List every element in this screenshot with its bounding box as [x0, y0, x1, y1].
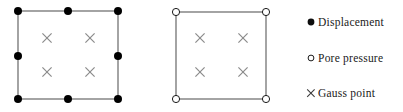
displacement-element	[14, 7, 122, 103]
hollow-circle-icon	[302, 51, 318, 65]
legend-item-pore-pressure: Pore pressure	[302, 51, 383, 65]
legend-label-pore-pressure: Pore pressure	[318, 51, 383, 65]
legend-label-displacement: Displacement	[318, 15, 384, 29]
gauss-point-marker	[238, 33, 247, 42]
gauss-point-marker	[85, 67, 94, 76]
gauss-point-marker	[42, 67, 51, 76]
gauss-point-marker	[195, 33, 204, 42]
displacement-node	[114, 7, 122, 15]
pore-pressure-node	[172, 95, 179, 102]
filled-circle-icon	[302, 15, 318, 29]
displacement-node	[14, 7, 22, 15]
gauss-point-marker	[195, 67, 204, 76]
displacement-node	[64, 95, 72, 103]
legend-item-gauss-point: Gauss point	[302, 86, 375, 100]
element-boundary	[176, 12, 266, 99]
legend: Displacement Pore pressure Gauss point	[302, 0, 403, 112]
gauss-point-marker	[42, 33, 51, 42]
cross-x-icon	[302, 86, 318, 100]
displacement-node	[14, 52, 22, 60]
pore-pressure-node	[172, 8, 179, 15]
pore-pressure-element	[172, 8, 269, 102]
gauss-point-marker	[238, 67, 247, 76]
pore-pressure-node	[262, 8, 269, 15]
pore-pressure-node	[262, 95, 269, 102]
gauss-point-marker	[85, 33, 94, 42]
legend-item-displacement: Displacement	[302, 15, 384, 29]
element-node-figure: Displacement Pore pressure Gauss point	[0, 0, 403, 112]
displacement-node	[114, 95, 122, 103]
displacement-node	[64, 7, 72, 15]
displacement-node	[14, 95, 22, 103]
element-boundary	[18, 11, 118, 99]
legend-label-gauss-point: Gauss point	[318, 86, 375, 100]
displacement-node	[114, 52, 122, 60]
